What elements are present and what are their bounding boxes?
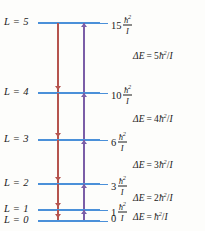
arrow-shaft [57, 93, 59, 139]
arrowhead-down [55, 86, 61, 90]
energy-coefficient-L4: 10 [111, 91, 122, 101]
arrowhead-up [81, 184, 87, 188]
level-label-L5: L = 5 [4, 17, 29, 27]
delta-e-symbol: ΔE [133, 160, 145, 170]
arrowhead-down [55, 133, 61, 137]
hbar-squared-over-I-fraction-L1: ħ2I [118, 203, 127, 222]
hbar-exponent: 2 [128, 83, 131, 90]
level-line-L4 [38, 92, 100, 94]
level-label-L3: L = 3 [4, 134, 29, 144]
level-line-tail-L0 [100, 221, 108, 222]
arrowhead-down [55, 203, 61, 207]
moment-of-inertia-symbol: I [169, 160, 172, 170]
moment-of-inertia-symbol: I [169, 193, 172, 203]
equals-sign: = [147, 51, 152, 61]
level-line-L2 [38, 183, 100, 185]
level-label-L1: L = 1 [4, 204, 29, 214]
fraction-numerator-L3: ħ2 [118, 133, 127, 142]
fraction-numerator-L2: ħ2 [118, 177, 127, 186]
equals-sign: = [147, 114, 152, 124]
fraction-denominator-L4: I [123, 95, 132, 105]
fraction-denominator-L2: I [118, 186, 127, 196]
hbar-squared-over-I-fraction-L3: ħ2I [118, 133, 127, 152]
level-label-L0: L = 0 [4, 215, 29, 225]
level-energy-value-L3: 6ħ2I [111, 133, 127, 152]
rotational-energy-level-diagram: L = 5L = 4L = 3L = 2L = 1L = 0 15ħ2I10ħ2… [0, 0, 205, 231]
delta-energy-equation-1: ΔE=5ħ2/I [133, 51, 173, 61]
hbar-squared-over-I-fraction-L5: ħ2I [123, 16, 132, 35]
level-line-L1 [38, 209, 100, 211]
level-energy-value-L5: 15ħ2I [111, 16, 132, 35]
fraction-numerator-L1: ħ2 [118, 203, 127, 212]
arrowhead-up [81, 210, 87, 214]
moment-of-inertia-symbol: I [165, 212, 168, 222]
fraction-numerator-L4: ħ2 [123, 86, 132, 95]
fraction-denominator-L1: I [118, 212, 127, 222]
level-label-L2: L = 2 [4, 178, 29, 188]
hbar-exponent: 2 [128, 13, 131, 20]
arrowhead-down [55, 214, 61, 218]
level-label-L4: L = 4 [4, 87, 29, 97]
hbar-squared-over-I-fraction-L4: ħ2I [123, 86, 132, 105]
equals-sign: = [147, 160, 152, 170]
level-line-tail-L3 [100, 140, 108, 141]
level-line-L0 [38, 220, 100, 222]
equals-sign: = [147, 193, 152, 203]
hbar-squared-over-I-fraction-L2: ħ2I [118, 177, 127, 196]
hbar-exponent: 2 [123, 200, 126, 207]
arrow-shaft [83, 93, 85, 139]
arrowhead-up [81, 140, 87, 144]
fraction-numerator-L5: ħ2 [123, 16, 132, 25]
energy-coefficient-L0: 0 [111, 214, 116, 224]
level-energy-value-L2: 3ħ2I [111, 177, 127, 196]
delta-energy-equation-3: ΔE=3ħ2/I [133, 160, 173, 170]
arrow-shaft [57, 23, 59, 92]
level-energy-value-L0: 0 [111, 214, 118, 224]
hbar-exponent: 2 [123, 174, 126, 181]
delta-e-symbol: ΔE [133, 193, 145, 203]
delta-energy-equation-5: ΔE=ħ2/I [133, 212, 168, 222]
energy-coefficient-L3: 6 [111, 138, 116, 148]
delta-e-symbol: ΔE [133, 212, 145, 222]
moment-of-inertia-symbol: I [169, 51, 172, 61]
hbar-exponent: 2 [123, 130, 126, 137]
level-line-L3 [38, 139, 100, 141]
delta-energy-equation-4: ΔE=2ħ2/I [133, 193, 173, 203]
level-line-L5 [38, 22, 100, 24]
energy-coefficient-L5: 15 [111, 21, 122, 31]
arrowhead-up [81, 93, 87, 97]
delta-e-symbol: ΔE [133, 114, 145, 124]
level-line-tail-L4 [100, 93, 108, 94]
level-line-tail-L2 [100, 184, 108, 185]
arrowhead-down [55, 177, 61, 181]
delta-energy-equation-2: ΔE=4ħ2/I [133, 114, 173, 124]
fraction-denominator-L5: I [123, 25, 132, 35]
level-energy-value-L4: 10ħ2I [111, 86, 132, 105]
arrow-shaft [83, 23, 85, 92]
equals-sign: = [147, 212, 152, 222]
level-line-tail-L1 [100, 210, 108, 211]
level-line-tail-L5 [100, 23, 108, 24]
fraction-denominator-L3: I [118, 142, 127, 152]
energy-coefficient-L2: 3 [111, 182, 116, 192]
delta-e-symbol: ΔE [133, 51, 145, 61]
arrowhead-up [81, 23, 87, 27]
moment-of-inertia-symbol: I [169, 114, 172, 124]
arrow-shaft [83, 140, 85, 183]
